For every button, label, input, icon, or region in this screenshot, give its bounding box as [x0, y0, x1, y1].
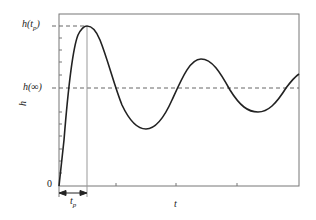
y-tick-label-h-inf: h(∞): [23, 81, 42, 92]
y-axis-label: h: [17, 101, 28, 106]
plot-frame: [59, 14, 299, 186]
response-curve: [59, 26, 299, 186]
y-tick-label-zero: 0: [47, 178, 52, 189]
tp-label: tp: [70, 195, 76, 209]
x-axis-label: t: [174, 198, 177, 209]
y-tick-label-h-tp: h(tp): [22, 18, 40, 32]
